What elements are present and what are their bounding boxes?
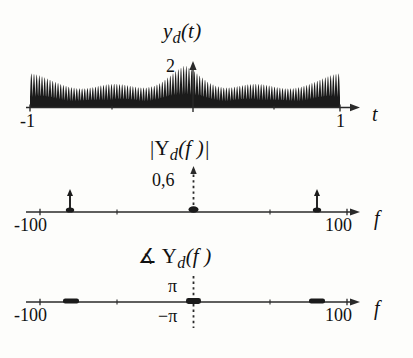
phase-plot-svg — [0, 242, 413, 358]
magnitude-axis-variable: f — [374, 208, 380, 228]
panel-time-domain: yd(t) 2 -1 1 — [0, 0, 413, 140]
magnitude-x-right-label: 100 — [325, 216, 352, 234]
phase-component-markers — [63, 298, 325, 304]
panel-magnitude: |Yd(f )| 0,6 — [0, 134, 413, 244]
phase-axis-variable: f — [374, 298, 380, 318]
time-domain-plot-svg — [0, 0, 413, 140]
phase-x-left-label: -100 — [14, 306, 47, 324]
phase-x-right-label: 100 — [325, 306, 352, 324]
time-waveform-fill — [30, 66, 340, 107]
magnitude-reference-dotted-line — [190, 166, 196, 212]
time-axis-variable: t — [372, 104, 378, 124]
magnitude-x-left-label: -100 — [14, 216, 47, 234]
figure-canvas: yd(t) 2 -1 1 — [0, 0, 413, 358]
time-x-left-label: -1 — [20, 112, 35, 130]
panel-phase: ∡ Yd(f ) π −π -10 — [0, 242, 413, 358]
time-x-right-label: 1 — [336, 112, 345, 130]
